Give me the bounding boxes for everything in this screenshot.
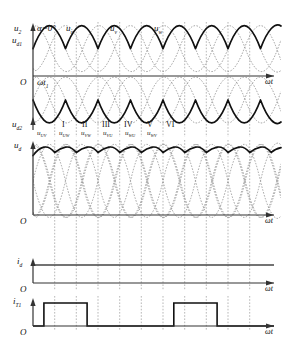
- line-voltage-label-uw: uUW: [59, 130, 69, 139]
- dotted-line-voltages: [33, 143, 281, 218]
- line-voltage-label-wv: uWV: [147, 130, 157, 139]
- segment-label-2: II: [82, 121, 87, 129]
- segment-label-6: VI: [166, 121, 174, 129]
- segment-label-1: I: [62, 121, 65, 129]
- axis-label-wt-panel1: ωt: [265, 78, 273, 86]
- dotted-phase-waves-panel2: [33, 77, 281, 123]
- waveform-ud: [33, 147, 281, 156]
- segment-label-3: III: [102, 121, 110, 129]
- alpha-annotation: α=0°: [37, 24, 56, 33]
- y-axis-arrow-panel2: [30, 117, 35, 125]
- waveform-canvas: [0, 0, 294, 344]
- y-axis-arrow-panel1: [30, 23, 35, 31]
- axis-label-wt-panel4: ωt: [265, 285, 273, 293]
- y-label-u2: u2: [14, 24, 21, 35]
- gridlines-panel1: [55, 22, 250, 76]
- phase-label-uu: uu: [66, 24, 73, 35]
- waveform-ud2-envelope: [33, 100, 281, 124]
- y-axis-arrow-panel4: [30, 258, 35, 266]
- axis-label-wt-panel5: ωt: [265, 328, 273, 336]
- y-label-ud2: ud2: [12, 120, 22, 131]
- origin-panel4: O: [20, 285, 27, 294]
- origin-panel5: O: [20, 328, 27, 337]
- phase-label-uv: uv: [110, 24, 117, 35]
- line-voltage-label-wu: uWU: [125, 130, 135, 139]
- y-label-ud1: ud1: [12, 36, 22, 47]
- waveform-it1: [33, 303, 274, 326]
- panel-id-group: [30, 246, 274, 290]
- segment-label-4: IV: [124, 121, 132, 129]
- line-voltage-label-uv: uUV: [37, 130, 46, 139]
- gridlines-panel5: [55, 296, 250, 330]
- axis-label-wt-panel3: ωt: [265, 217, 273, 225]
- y-axis-arrow-panel5: [30, 298, 35, 306]
- origin-panel1: O: [20, 78, 27, 87]
- y-label-ud: ud: [14, 141, 21, 152]
- waveform-figure: u2 ud1 α=0° uu uv uw O ωt1 ωt ud2 I II I…: [0, 0, 294, 344]
- segment-label-5: V: [147, 121, 153, 129]
- line-voltage-label-vu: uVU: [103, 130, 112, 139]
- y-label-id: id: [17, 257, 22, 268]
- phase-label-uw: uw: [154, 24, 162, 35]
- y-axis-arrow-panel3: [30, 141, 35, 149]
- panel-it1-group: [30, 296, 274, 330]
- panel-ud-group: [30, 140, 281, 246]
- omega-t1-marker: ωt1: [37, 78, 49, 89]
- y-label-it1: iT1: [13, 297, 21, 308]
- panel-ud2-group: [30, 76, 281, 137]
- origin-panel3: O: [20, 217, 27, 226]
- line-voltage-label-vw: uVW: [81, 130, 91, 139]
